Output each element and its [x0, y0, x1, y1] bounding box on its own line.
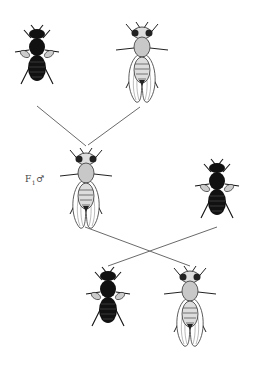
generation-letter: F — [25, 174, 32, 184]
fly-parent-dark-icon — [15, 25, 59, 84]
fly-offspring-dark-icon — [86, 267, 130, 326]
fly-f1-male-icon — [60, 148, 112, 228]
fly-testcross-dark-icon — [195, 159, 239, 218]
testcross-lines — [85, 227, 217, 266]
fly-offspring-wildtype-icon — [164, 266, 216, 346]
fly-parent-wildtype-icon — [116, 22, 168, 102]
f1-male-label: F1♂ — [25, 174, 45, 186]
genetic-cross-diagram: F1♂ — [0, 0, 264, 371]
parent-cross-lines — [37, 106, 140, 146]
male-symbol: ♂ — [36, 174, 45, 184]
